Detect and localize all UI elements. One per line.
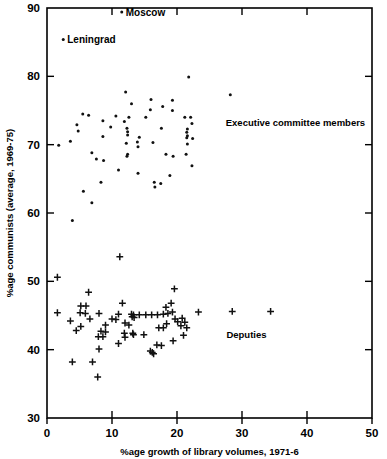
x-axis-tick-label: 20 — [171, 427, 184, 439]
data-point — [187, 76, 190, 79]
y-axis-tick-label: 40 — [27, 344, 40, 356]
data-point — [160, 127, 163, 130]
data-point — [171, 109, 174, 112]
y-axis-tick-label: 30 — [27, 412, 40, 424]
series-label-deputies: Deputies — [226, 329, 266, 340]
data-point — [190, 122, 193, 125]
x-axis-tick-label: 50 — [366, 427, 379, 439]
data-point — [99, 181, 102, 184]
data-point — [57, 144, 60, 147]
data-point — [101, 135, 104, 138]
data-point — [102, 159, 105, 162]
data-point — [137, 145, 140, 148]
data-point — [87, 114, 90, 117]
data-point — [95, 158, 98, 161]
annotation-leningrad: Leningrad — [67, 34, 115, 45]
data-point — [109, 125, 112, 128]
annotation-moscow: Moscow — [126, 7, 166, 18]
series-label-executive-committee: Executive committee members — [226, 117, 365, 128]
data-point — [159, 182, 162, 185]
data-point — [144, 116, 147, 119]
data-point — [164, 153, 167, 156]
x-axis-tick-label: 40 — [301, 427, 314, 439]
chart-canvas: 0102030405030405060708090%age growth of … — [0, 0, 387, 459]
y-axis-tick-label: 80 — [27, 70, 40, 82]
scatter-chart: 0102030405030405060708090%age growth of … — [0, 0, 387, 459]
y-axis-tick-label: 60 — [27, 207, 40, 219]
data-point — [171, 99, 174, 102]
data-point — [153, 186, 156, 189]
data-point — [126, 134, 129, 137]
data-point — [149, 108, 152, 111]
data-point — [69, 140, 72, 143]
y-axis-title: %age communists (average, 1969-75) — [4, 129, 15, 297]
data-point — [189, 116, 192, 119]
data-point — [75, 123, 78, 126]
data-point — [153, 181, 156, 184]
data-point — [137, 172, 140, 175]
data-point — [186, 127, 189, 130]
x-axis-title: %age growth of library volumes, 1971-6 — [120, 446, 298, 457]
data-point — [229, 93, 232, 96]
x-axis-tick-label: 10 — [106, 427, 119, 439]
data-point — [183, 116, 186, 119]
data-point — [124, 91, 127, 94]
chart-background — [0, 0, 387, 459]
data-point — [77, 130, 80, 133]
data-point — [150, 98, 153, 101]
data-point — [101, 119, 104, 122]
data-point — [82, 190, 85, 193]
y-axis-tick-label: 90 — [27, 2, 40, 14]
data-point — [117, 168, 120, 171]
data-point — [172, 155, 175, 158]
x-axis-tick-label: 30 — [236, 427, 249, 439]
data-point — [125, 155, 128, 158]
data-point — [130, 102, 133, 105]
data-point — [190, 164, 193, 167]
data-point — [71, 219, 74, 222]
data-point — [126, 130, 129, 133]
data-point — [185, 131, 188, 134]
data-point — [90, 201, 93, 204]
data-point — [136, 140, 139, 143]
data-point — [138, 136, 141, 139]
data-point — [81, 112, 84, 115]
data-point — [161, 105, 164, 108]
data-point — [191, 137, 194, 140]
data-point — [62, 38, 65, 41]
y-axis-tick-label: 70 — [27, 139, 40, 151]
data-point — [168, 174, 171, 177]
data-point — [114, 114, 117, 117]
y-axis-tick-label: 50 — [27, 275, 40, 287]
data-point — [125, 127, 128, 130]
data-point — [123, 120, 126, 123]
data-point — [185, 153, 188, 156]
data-point — [125, 142, 128, 145]
data-point — [186, 142, 189, 145]
data-point — [151, 141, 154, 144]
data-point — [90, 151, 93, 154]
data-point — [185, 136, 188, 139]
data-point — [127, 116, 130, 119]
data-point — [120, 11, 123, 14]
x-axis-tick-label: 0 — [44, 427, 50, 439]
